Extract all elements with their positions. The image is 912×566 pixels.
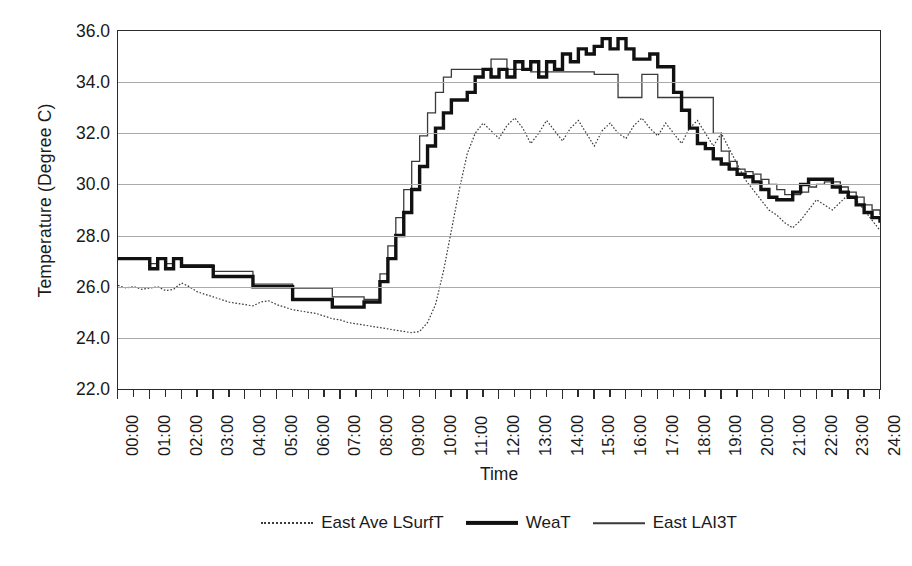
x-tick [577,390,578,397]
x-axis-tick-labels: 00:0001:0002:0003:0004:0005:0006:0007:00… [117,398,881,460]
x-tick-label: 14:00 [568,415,587,456]
x-tick-label: 24:00 [885,415,904,456]
x-tick [450,390,451,397]
y-tick-label: 28.0 [38,225,110,246]
x-tick [228,390,229,397]
x-tick [387,390,388,397]
x-tick-label: 21:00 [790,415,809,456]
series-line-east-lai3t [118,59,880,299]
x-tick [800,390,801,397]
y-axis-tick-labels: 36.034.032.030.028.026.024.022.0 [34,30,110,390]
x-tick-label: 05:00 [282,415,301,456]
series-canvas [118,31,880,389]
x-tick-label: 18:00 [695,415,714,456]
x-axis-title: Time [117,464,881,485]
x-tick-label: 01:00 [155,415,174,456]
legend-item: East LAI3T [593,513,737,533]
x-tick [292,390,293,397]
x-tick [196,390,197,397]
chart-figure: Temperature (Degree C) 36.034.032.030.02… [0,0,912,566]
x-tick [768,390,769,397]
x-tick-label: 10:00 [441,415,460,456]
x-tick [133,390,134,397]
series-svg [118,31,880,389]
x-tick-label: 09:00 [409,415,428,456]
x-tick-label: 20:00 [758,415,777,456]
x-tick [831,390,832,397]
x-tick-label: 06:00 [314,415,333,456]
x-tick [419,390,420,397]
x-tick [863,390,864,397]
legend-swatch-icon [593,518,645,529]
x-tick-label: 04:00 [250,415,269,456]
x-tick-label: 19:00 [726,415,745,456]
legend-label: WeaT [526,513,571,533]
legend-label: East LAI3T [653,513,737,533]
x-tick-label: 11:00 [472,416,491,456]
legend-item: WeaT [466,513,571,533]
x-tick [165,390,166,397]
gridline [118,236,880,237]
x-tick [482,390,483,397]
gridline [118,338,880,339]
plot-area [117,30,881,390]
x-tick [609,390,610,397]
x-tick-label: 03:00 [218,415,237,456]
x-tick-label: 16:00 [631,415,650,456]
x-tick [546,390,547,397]
y-tick-label: 26.0 [38,276,110,297]
x-tick [323,390,324,397]
y-tick-label: 36.0 [38,21,110,42]
gridline [118,184,880,185]
x-tick [260,390,261,397]
y-tick-label: 34.0 [38,72,110,93]
x-tick [514,390,515,397]
y-tick-label: 30.0 [38,174,110,195]
gridline [118,82,880,83]
x-tick [673,390,674,397]
x-tick [641,390,642,397]
x-tick-label: 13:00 [536,415,555,456]
series-line-weat [118,39,880,308]
series-line-east-ave-lsurft [118,118,880,333]
x-tick [736,390,737,397]
x-tick-label: 12:00 [504,415,523,456]
x-tick-label: 17:00 [663,415,682,456]
legend-label: East Ave LSurfT [321,513,444,533]
x-tick-label: 07:00 [345,415,364,456]
y-tick-label: 24.0 [38,327,110,348]
gridline [118,287,880,288]
x-tick-label: 08:00 [377,415,396,456]
legend-swatch-icon [261,518,313,529]
legend-swatch-icon [466,518,518,529]
x-tick [355,390,356,397]
x-tick-label: 00:00 [123,415,142,456]
x-tick-label: 15:00 [599,415,618,456]
x-tick-label: 22:00 [822,415,841,456]
x-tick [704,390,705,397]
chart-legend: East Ave LSurfTWeaTEast LAI3T [117,508,881,538]
x-tick-label: 02:00 [187,415,206,456]
gridline [118,133,880,134]
legend-item: East Ave LSurfT [261,513,444,533]
y-tick-label: 32.0 [38,123,110,144]
y-tick-label: 22.0 [38,379,110,400]
x-tick-label: 23:00 [853,415,872,456]
